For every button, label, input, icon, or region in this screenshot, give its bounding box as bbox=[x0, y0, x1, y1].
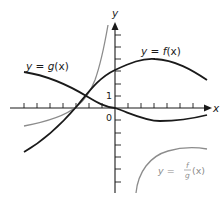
curve-f-over-g-left bbox=[24, 25, 108, 126]
label-f-over-g: y = f g (x) bbox=[157, 161, 205, 180]
fraction-denominator: g bbox=[185, 171, 190, 180]
svg-text:y = g(x): y = g(x) bbox=[25, 60, 69, 72]
y-axis-arrow-icon bbox=[112, 22, 119, 30]
svg-text:y =: y = bbox=[157, 165, 175, 176]
origin-label: 0 bbox=[106, 112, 112, 123]
svg-text:(x): (x) bbox=[192, 165, 205, 176]
label-g: y = g(x) bbox=[25, 60, 69, 72]
y-axis-label: y bbox=[111, 7, 119, 19]
y-axis: y 1 0 bbox=[106, 7, 121, 193]
function-graph: x y 1 0 y = g(x) bbox=[0, 0, 222, 205]
unit-label: 1 bbox=[106, 90, 112, 101]
x-axis-label: x bbox=[212, 102, 220, 114]
x-axis-arrow-icon bbox=[204, 105, 212, 112]
fraction-numerator: f bbox=[186, 161, 190, 170]
label-f: y = f(x) bbox=[140, 45, 181, 57]
svg-text:y = f(x): y = f(x) bbox=[140, 45, 181, 57]
